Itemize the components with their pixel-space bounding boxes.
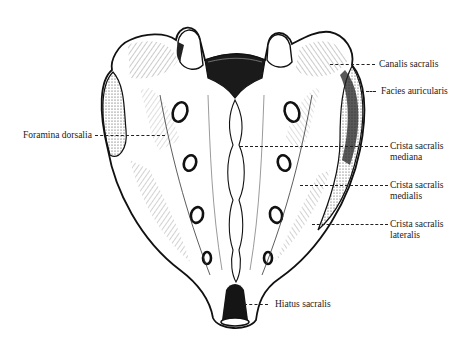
leader-hiatus-sacralis xyxy=(244,304,268,305)
label-hiatus-sacralis: Hiatus sacralis xyxy=(275,299,331,310)
label-crista-lateralis-line1: Crista sacralis xyxy=(390,219,444,230)
label-crista-medialis: Crista sacralis medialis xyxy=(390,180,444,202)
label-facies-auricularis: Facies auricularis xyxy=(381,86,448,97)
label-crista-lateralis-line2: lateralis xyxy=(390,230,444,241)
label-crista-lateralis: Crista sacralis lateralis xyxy=(390,219,444,241)
label-crista-medialis-line1: Crista sacralis xyxy=(390,180,444,191)
label-crista-medialis-line2: medialis xyxy=(390,191,444,202)
leader-crista-medialis xyxy=(300,185,388,186)
label-crista-mediana-line1: Crista sacralis xyxy=(390,141,444,152)
leader-facies-auricularis xyxy=(366,91,376,92)
leader-crista-lateralis xyxy=(312,224,388,225)
label-crista-mediana: Crista sacralis mediana xyxy=(390,141,444,163)
leader-foramina-dorsalia xyxy=(95,135,165,136)
sacrum-illustration xyxy=(0,0,474,343)
label-canalis-sacralis: Canalis sacralis xyxy=(379,59,438,70)
label-foramina-dorsalia: Foramina dorsalia xyxy=(23,130,92,141)
leader-canalis-sacralis xyxy=(330,64,375,65)
label-crista-mediana-line2: mediana xyxy=(390,152,444,163)
leader-crista-mediana xyxy=(240,146,388,147)
